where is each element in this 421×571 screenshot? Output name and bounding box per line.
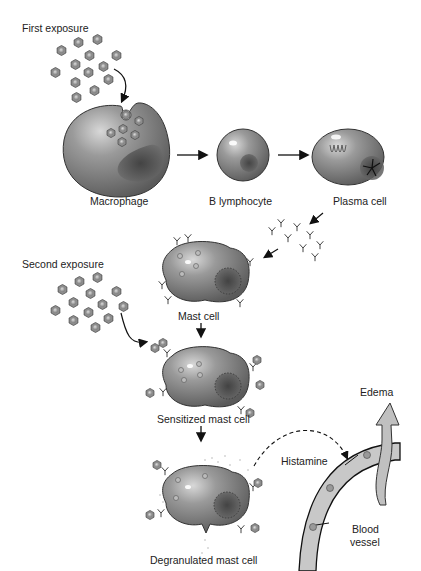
antigens-first-exposure: [51, 34, 121, 102]
plasma-cell-label: Plasma cell: [333, 195, 387, 207]
first-exposure-label: First exposure: [22, 22, 89, 34]
antibodies-free: [269, 219, 324, 261]
degranulated-mast-cell-label: Degranulated mast cell: [150, 554, 257, 566]
blood-vessel-label-line2: vessel: [350, 536, 380, 548]
arrow-plasma-to-antibodies: [311, 213, 323, 223]
edema-label: Edema: [360, 386, 393, 398]
arrow-to-sensitized: [121, 313, 146, 342]
macrophage-cell: [63, 103, 170, 197]
second-exposure-label: Second exposure: [22, 258, 104, 270]
b-lymphocyte-label: B lymphocyte: [209, 195, 272, 207]
sensitized-mast-cell: [146, 338, 264, 417]
mast-cell: [159, 234, 254, 307]
sensitized-mast-cell-label: Sensitized mast cell: [157, 413, 250, 425]
arrow-to-macrophage: [114, 69, 126, 101]
histamine-label: Histamine: [281, 455, 328, 467]
blood-vessel-label-line1: Blood: [352, 523, 379, 535]
arrow-antibodies-to-mast: [265, 249, 278, 257]
b-lymphocyte-cell: [217, 129, 269, 181]
macrophage-label: Macrophage: [90, 195, 148, 207]
allergic-reaction-diagram: [0, 0, 421, 571]
antigens-second-exposure: [51, 272, 128, 332]
degranulated-mast-cell: [146, 455, 262, 554]
plasma-cell: [312, 129, 384, 185]
mast-cell-label: Mast cell: [178, 310, 219, 322]
